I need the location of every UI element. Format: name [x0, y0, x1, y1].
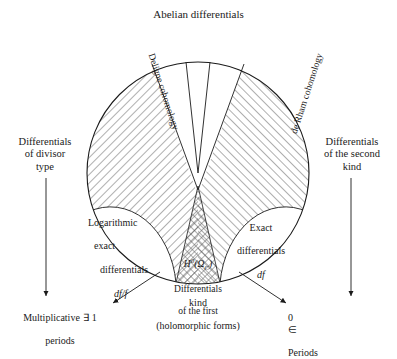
- zero-value: 0: [288, 312, 293, 323]
- first-kind-line-4: (holomorphic forms): [156, 320, 240, 331]
- label-periods: 0 ∈ Periods: [288, 300, 392, 359]
- cohomology-notation: H0(ΩC): [184, 259, 212, 269]
- multiplicative-row-2: periods: [4, 335, 116, 347]
- multiplicative-row-1: Multiplicative∃1: [4, 312, 116, 324]
- label-multiplicative-periods: Multiplicative∃1 periods: [4, 300, 116, 359]
- periods-text: Periods: [288, 347, 318, 358]
- first-kind-line-3: kind: [189, 297, 207, 308]
- exists-symbol: ∃: [80, 312, 92, 323]
- exact-line-1: Exact: [250, 222, 273, 233]
- log-line-1: Logarithmic: [86, 217, 178, 229]
- multiplicative-value: 1: [92, 312, 97, 323]
- label-first-kind-tail: kind (holomorphic forms): [137, 285, 259, 332]
- membership-symbol: ∈: [288, 324, 297, 335]
- label-differentials-of-second-kind: Differentials of the second kind: [309, 136, 395, 173]
- exact-formula: df: [257, 269, 265, 280]
- diagram-title: Abelian differentials: [0, 8, 397, 21]
- label-differentials-of-divisor-type: Differentials of divisor type: [2, 136, 88, 173]
